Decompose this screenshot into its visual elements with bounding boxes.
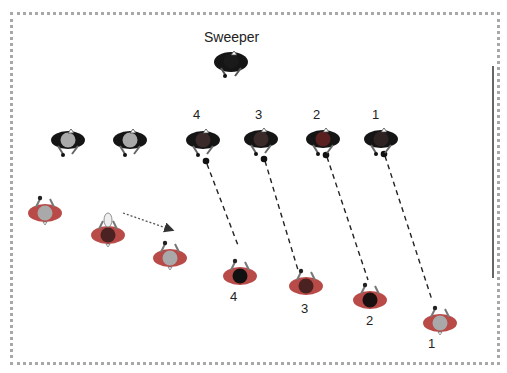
stone-dots xyxy=(203,151,388,165)
bottom-row-figures xyxy=(28,196,457,335)
top-label-2: 2 xyxy=(313,107,320,122)
bottom-label-2: 2 xyxy=(366,313,373,328)
top-label-1: 1 xyxy=(372,107,379,122)
bottom-label-1: 1 xyxy=(428,336,435,351)
top-label-3: 3 xyxy=(255,107,262,122)
top-label-4: 4 xyxy=(193,107,200,122)
sweeper-label: Sweeper xyxy=(204,29,259,45)
bottom-label-3: 3 xyxy=(301,301,308,316)
bottom-label-4: 4 xyxy=(230,289,237,304)
top-row-figures xyxy=(51,128,398,157)
sweeper-figure xyxy=(214,51,248,78)
diagram-scene xyxy=(0,0,507,373)
movement-arrow xyxy=(123,213,172,230)
